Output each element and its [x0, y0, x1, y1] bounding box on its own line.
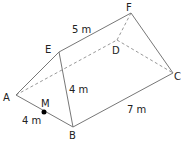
edge-BC — [73, 73, 173, 127]
point-m-dot — [42, 110, 47, 115]
label-c: C — [174, 71, 181, 82]
prism-diagram: A B C D E F M 5 m 4 m 4 m 7 m — [0, 0, 183, 141]
label-a: A — [3, 92, 10, 103]
edge-DC-hidden — [117, 40, 173, 73]
measure-bc: 7 m — [127, 104, 146, 115]
label-f: F — [126, 2, 132, 13]
label-d: D — [112, 45, 120, 56]
label-m: M — [41, 98, 50, 109]
edge-FE — [59, 13, 131, 52]
label-b: B — [69, 130, 76, 141]
measure-eb: 4 m — [69, 84, 88, 95]
edge-CF — [131, 13, 173, 73]
edge-EA — [16, 52, 59, 95]
measure-ef: 5 m — [72, 24, 91, 35]
label-e: E — [45, 44, 51, 55]
measure-ab: 4 m — [22, 115, 41, 126]
